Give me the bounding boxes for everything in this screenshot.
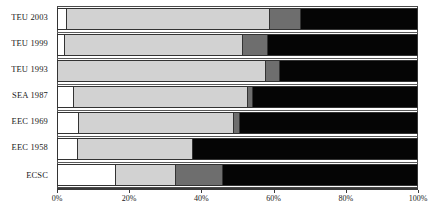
bar-segment: [57, 112, 78, 134]
x-axis-ticks: 0%20%40%60%80%100%: [0, 190, 437, 214]
category-label-teu-1993: TEU 1993: [11, 64, 48, 74]
bar-row: [57, 164, 418, 186]
row-separator: [57, 58, 418, 59]
row-separator: [57, 84, 418, 85]
x-tick-label: 0%: [52, 194, 63, 203]
bar-segment: [269, 8, 301, 30]
bar-segment: [175, 164, 222, 186]
category-label-ecsc: ECSC: [26, 170, 48, 180]
bar-row: [57, 138, 418, 160]
x-tick-label: 80%: [338, 194, 353, 203]
bar-segment: [279, 60, 418, 82]
bar-row: [57, 112, 418, 134]
x-tick-mark: [57, 190, 58, 193]
x-tick-mark: [274, 190, 275, 193]
bar-segment: [252, 86, 418, 108]
bar-segment: [115, 164, 175, 186]
bar-row: [57, 86, 418, 108]
bar-row: [57, 60, 418, 82]
bar-segment: [242, 34, 267, 56]
category-label-sea-1987: SEA 1987: [12, 90, 48, 100]
bar-segment: [192, 138, 418, 160]
bar-segment: [267, 34, 418, 56]
bar-segment: [66, 8, 268, 30]
bar-segment: [77, 138, 192, 160]
category-label-teu-1999: TEU 1999: [11, 38, 48, 48]
category-label-teu-2003: TEU 2003: [11, 12, 48, 22]
x-tick-mark: [201, 190, 202, 193]
x-tick-mark: [418, 190, 419, 193]
x-tick-mark: [346, 190, 347, 193]
row-separator: [57, 110, 418, 111]
bar-segment: [300, 8, 418, 30]
category-label-eec-1969: EEC 1969: [12, 116, 48, 126]
bar-row: [57, 34, 418, 56]
bar-segment: [265, 60, 278, 82]
row-separator: [57, 162, 418, 163]
bar-segment: [78, 112, 233, 134]
bar-segment: [57, 164, 115, 186]
bar-segment: [64, 34, 242, 56]
category-label-eec-1958: EEC 1958: [12, 142, 48, 152]
bar-segment: [57, 8, 66, 30]
bar-row: [57, 8, 418, 30]
x-tick-label: 60%: [266, 194, 281, 203]
stacked-bar-chart: TEU 2003 TEU 1999 TEU 1993 SEA 1987 EEC …: [0, 0, 437, 222]
row-separator: [57, 32, 418, 33]
bar-segment: [57, 34, 64, 56]
plot-area: [57, 6, 418, 188]
category-axis-labels: TEU 2003 TEU 1999 TEU 1993 SEA 1987 EEC …: [0, 0, 52, 188]
x-tick-label: 20%: [122, 194, 137, 203]
bar-segment: [57, 138, 77, 160]
x-tick-label: 100%: [409, 194, 428, 203]
bar-segment: [57, 60, 265, 82]
bar-segment: [57, 86, 73, 108]
row-separator: [57, 136, 418, 137]
bar-segment: [73, 86, 247, 108]
bar-segment: [222, 164, 418, 186]
x-tick-label: 40%: [194, 194, 209, 203]
bar-segment: [239, 112, 418, 134]
x-tick-mark: [129, 190, 130, 193]
